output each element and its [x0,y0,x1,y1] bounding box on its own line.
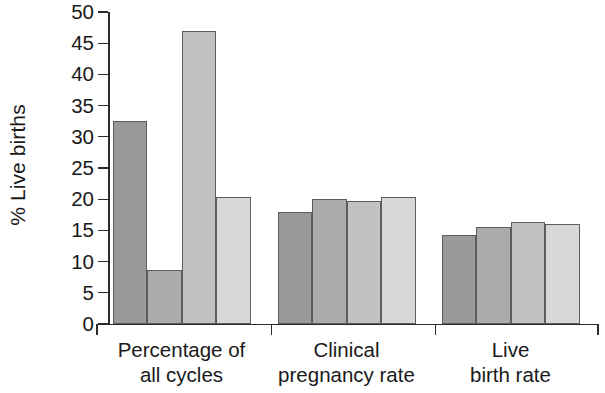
x-axis-group-separator [435,324,437,335]
x-axis-group-separator [271,324,273,335]
y-axis-tick-label: 15 [0,220,94,241]
bar [278,212,313,324]
bar-chart: % Live births 05101520253035404550 Perce… [0,0,605,393]
y-axis-tick-label: 10 [0,252,94,273]
y-axis-tick-label: 40 [0,64,94,85]
y-axis-tick [98,136,108,137]
bar [511,222,546,324]
x-axis-group-label-line: Live [401,337,605,362]
bar [216,197,251,324]
bar [545,224,580,324]
y-axis-tick [98,11,108,12]
y-axis-tick [98,167,108,168]
y-axis-tick [98,74,108,75]
y-axis-tick [98,261,108,262]
y-axis-tick-label: 30 [0,127,94,148]
y-axis-tick-label: 25 [0,158,94,179]
bar [442,235,477,324]
bar [113,121,148,324]
y-axis-tick-label: 5 [0,283,94,304]
y-axis-tick [98,323,108,324]
y-axis-tick [98,43,108,44]
x-axis-group-separator [597,324,599,335]
y-axis-tick-label: 20 [0,189,94,210]
y-axis-tick-label: 45 [0,33,94,54]
bar [381,197,416,324]
y-axis-tick [98,292,108,293]
bar [147,270,182,324]
y-axis-tick-label: 35 [0,96,94,117]
x-axis-group-label-line: birth rate [401,362,605,387]
y-axis-tick-label: 0 [0,314,94,335]
bar [182,31,217,324]
y-axis-tick [98,105,108,106]
y-axis-tick [98,230,108,231]
bar [476,227,511,324]
bar [347,201,382,324]
bar [312,199,347,324]
x-axis-group-label: Livebirth rate [401,337,605,387]
y-axis-tick [98,199,108,200]
y-axis-line [108,12,110,325]
y-axis-tick-label: 50 [0,2,94,23]
x-axis-group-separator [96,324,98,335]
